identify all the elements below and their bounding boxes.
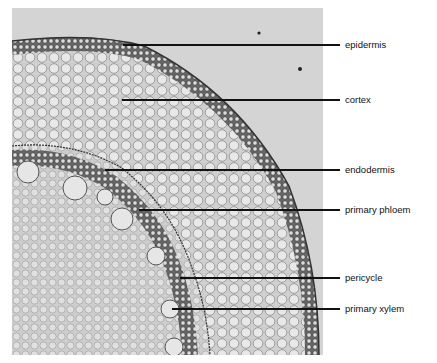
micrograph-illustration	[12, 8, 323, 355]
leader-line-primary-xylem	[172, 308, 340, 310]
leader-line-endodermis	[105, 169, 340, 171]
leader-line-pericycle	[180, 277, 340, 279]
label-epidermis: epidermis	[345, 39, 386, 51]
label-pericycle: pericycle	[345, 272, 383, 284]
leader-line-cortex	[122, 99, 340, 101]
label-cortex: cortex	[345, 94, 371, 106]
label-endodermis: endodermis	[345, 164, 395, 176]
label-primary-xylem: primary xylem	[345, 303, 404, 315]
leader-line-primary-phloem	[139, 209, 340, 211]
label-primary-phloem: primary phloem	[345, 204, 410, 216]
leader-line-epidermis	[123, 44, 340, 46]
root-cross-section-micrograph	[12, 8, 323, 355]
